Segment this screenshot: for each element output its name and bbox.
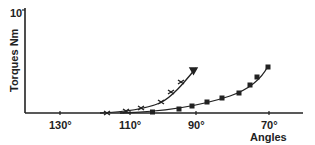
x-axis-title: Angles [250, 131, 287, 143]
y-tick-label-10: 10 [10, 7, 22, 19]
y-axis-title: Torques Nm [8, 28, 20, 92]
x-tick-label-90: 90° [188, 119, 205, 131]
square-series-markers [150, 65, 271, 115]
torque-angle-chart: 10 Torques Nm 130° 110° 90° 70° Angles [0, 0, 315, 145]
x-tick-label-70: 70° [261, 119, 278, 131]
cross-series-curve [100, 68, 196, 113]
x-tick-label-130: 130° [49, 119, 72, 131]
x-tick-label-110: 110° [119, 119, 141, 131]
